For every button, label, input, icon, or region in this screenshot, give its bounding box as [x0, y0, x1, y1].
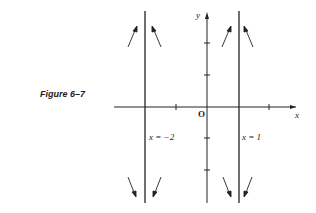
- asymptote-diagram: y x O x = −2 x = 1: [0, 0, 316, 213]
- x-axis-arrow-icon: [290, 105, 296, 109]
- asymptote-label-neg2: x = −2: [148, 132, 175, 142]
- x-axis-label: x: [294, 110, 299, 120]
- y-axis-label: y: [195, 10, 200, 20]
- direction-arrows: [128, 26, 253, 197]
- asymptote-label-1: x = 1: [241, 132, 261, 142]
- y-axis-arrow-icon: [205, 12, 209, 19]
- origin-label: O: [198, 109, 205, 119]
